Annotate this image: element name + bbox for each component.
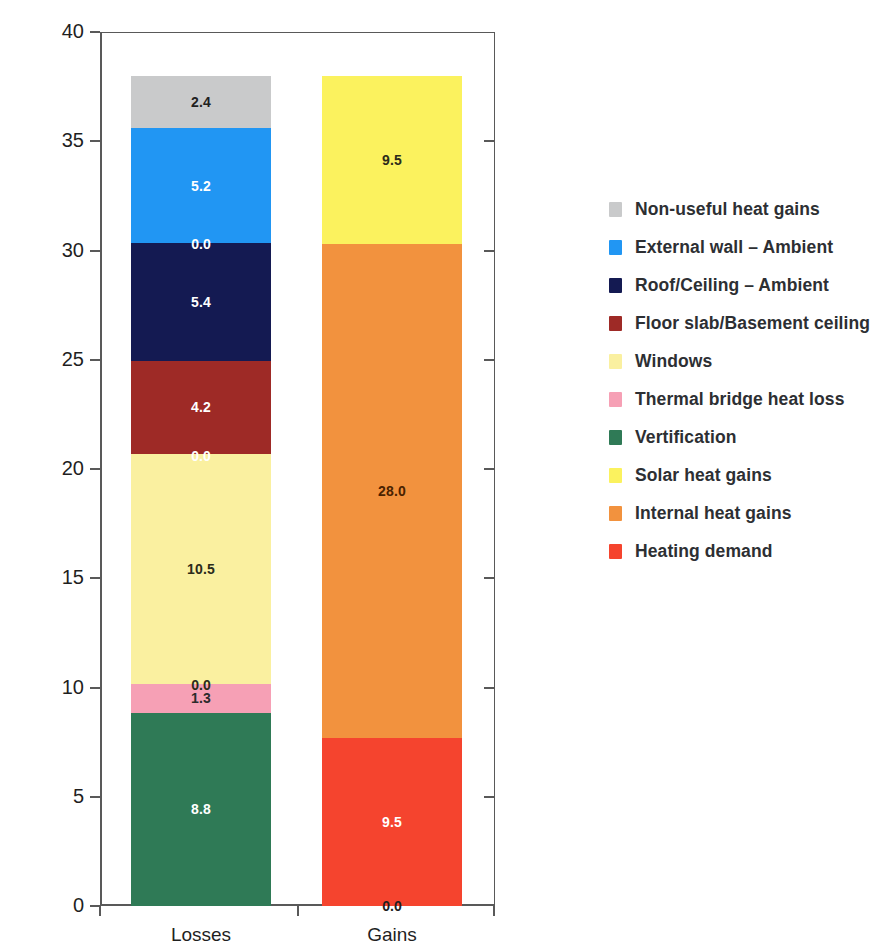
legend-label: Heating demand <box>635 541 773 562</box>
legend-label: Thermal bridge heat loss <box>635 389 845 410</box>
x-axis-label-losses: Losses <box>101 924 301 945</box>
segment-value-label: 9.5 <box>382 815 402 829</box>
y-gridline-stub <box>484 359 495 361</box>
legend-item-internal-heat-gains[interactable]: Internal heat gains <box>609 494 874 532</box>
y-tick-mark <box>90 577 100 579</box>
y-tick-label: 10 <box>62 676 84 699</box>
legend-label: Internal heat gains <box>635 503 792 524</box>
legend-label: Floor slab/Basement ceiling <box>635 313 870 334</box>
legend-item-external-wall-ambient[interactable]: External wall – Ambient <box>609 228 874 266</box>
legend-swatch-icon <box>609 316 622 331</box>
segment-value-label: 5.4 <box>191 295 211 309</box>
legend-item-roof-ceiling-ambient[interactable]: Roof/Ceiling – Ambient <box>609 266 874 304</box>
zero-value-label: 0.0 <box>131 678 271 692</box>
y-tick-label: 40 <box>62 20 84 43</box>
legend-swatch-icon <box>609 240 622 255</box>
bar-segment-roof-ceiling-ambient[interactable]: 5.4 <box>131 243 271 362</box>
plot-area: Heat flows [kWh/(m2a)] 0510152025303540 … <box>100 32 495 906</box>
legend-item-windows[interactable]: Windows <box>609 342 874 380</box>
legend-swatch-icon <box>609 506 622 521</box>
legend-swatch-icon <box>609 392 622 407</box>
zero-value-label: 0.0 <box>322 899 462 913</box>
legend-item-heating-demand[interactable]: Heating demand <box>609 532 874 570</box>
legend-label: Non-useful heat gains <box>635 199 820 220</box>
legend-item-vertification[interactable]: Vertification <box>609 418 874 456</box>
y-tick-mark <box>90 359 100 361</box>
y-tick-label: 0 <box>73 894 84 917</box>
y-tick-label: 35 <box>62 129 84 152</box>
legend-item-solar-heat-gains[interactable]: Solar heat gains <box>609 456 874 494</box>
legend: Non-useful heat gainsExternal wall – Amb… <box>609 190 874 570</box>
segment-value-label: 5.2 <box>191 179 211 193</box>
legend-swatch-icon <box>609 202 622 217</box>
y-gridline-stub <box>484 577 495 579</box>
y-tick-label: 25 <box>62 348 84 371</box>
legend-item-thermal-bridge-heat-loss[interactable]: Thermal bridge heat loss <box>609 380 874 418</box>
x-tick-mark <box>297 906 299 916</box>
x-axis-label-gains: Gains <box>292 924 492 945</box>
y-gridline-stub <box>484 468 495 470</box>
legend-swatch-icon <box>609 278 622 293</box>
y-tick-label: 20 <box>62 457 84 480</box>
segment-value-label: 9.5 <box>382 153 402 167</box>
segment-value-label: 4.2 <box>191 400 211 414</box>
y-tick-mark <box>90 31 100 33</box>
legend-swatch-icon <box>609 354 622 369</box>
y-tick-mark <box>90 250 100 252</box>
bar-segment-windows[interactable]: 10.5 <box>131 454 271 685</box>
legend-item-non-useful-heat-gains[interactable]: Non-useful heat gains <box>609 190 874 228</box>
bar-segment-solar-heat-gains[interactable]: 9.5 <box>322 76 462 244</box>
bar-segment-vertification[interactable]: 8.8 <box>131 713 271 906</box>
segment-value-label: 10.5 <box>187 562 215 576</box>
bar-segment-non-useful-heat-gains[interactable]: 2.4 <box>131 76 271 129</box>
bar-segment-internal-heat-gains[interactable]: 28.0 <box>322 244 462 739</box>
y-tick-mark <box>90 468 100 470</box>
bar-segment-heating-demand[interactable]: 9.5 <box>322 738 462 906</box>
legend-swatch-icon <box>609 430 622 445</box>
legend-label: External wall – Ambient <box>635 237 833 258</box>
x-tick-mark <box>493 906 495 916</box>
y-gridline-stub <box>484 250 495 252</box>
y-tick-label: 5 <box>73 785 84 808</box>
zero-value-label: 0.0 <box>131 449 271 463</box>
legend-swatch-icon <box>609 468 622 483</box>
y-tick-label: 15 <box>62 566 84 589</box>
legend-label: Solar heat gains <box>635 465 772 486</box>
x-tick-mark <box>99 906 101 916</box>
bar-segment-floor-slab-basement-ceiling[interactable]: 4.2 <box>131 361 271 453</box>
bar-segment-external-wall-ambient[interactable]: 5.2 <box>131 128 271 242</box>
zero-value-label: 0.0 <box>131 237 271 251</box>
segment-value-label: 2.4 <box>191 95 211 109</box>
segment-value-label: 8.8 <box>191 802 211 816</box>
segment-value-label: 28.0 <box>378 484 406 498</box>
legend-label: Roof/Ceiling – Ambient <box>635 275 829 296</box>
y-tick-label: 30 <box>62 239 84 262</box>
cutoff-title-remnant <box>0 0 560 4</box>
y-gridline-stub <box>484 687 495 689</box>
y-tick-mark <box>90 140 100 142</box>
legend-label: Windows <box>635 351 712 372</box>
legend-item-floor-slab-basement-ceiling[interactable]: Floor slab/Basement ceiling <box>609 304 874 342</box>
legend-label: Vertification <box>635 427 736 448</box>
y-gridline-stub <box>484 140 495 142</box>
y-tick-mark <box>90 687 100 689</box>
segment-value-label: 1.3 <box>191 691 211 705</box>
y-gridline-stub <box>484 796 495 798</box>
y-tick-mark <box>90 796 100 798</box>
legend-swatch-icon <box>609 544 622 559</box>
bar-losses[interactable]: 8.81.310.54.25.45.22.40.00.00.0 <box>131 32 271 906</box>
bar-gains[interactable]: 9.528.09.50.0 <box>322 32 462 906</box>
